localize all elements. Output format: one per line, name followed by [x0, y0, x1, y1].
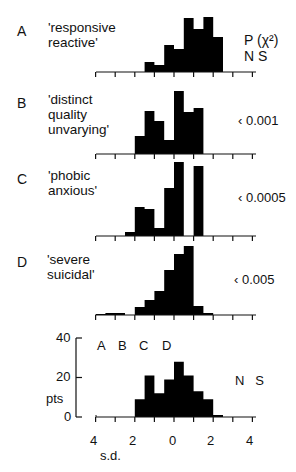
histogram-bars-b [135, 91, 204, 154]
histogram-plots [0, 0, 296, 472]
histogram-bars-d [96, 246, 214, 315]
histogram-bars-a [145, 17, 223, 72]
histogram-bars-total [135, 362, 223, 417]
histogram-bars-c [125, 162, 203, 236]
